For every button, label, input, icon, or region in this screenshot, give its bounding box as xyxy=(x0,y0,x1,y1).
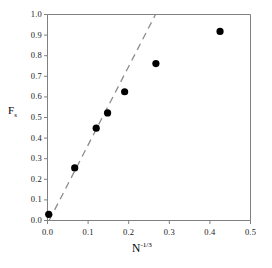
x-tick-label: 0.2 xyxy=(113,227,145,237)
scatter-chart-figure: 0.00.10.20.30.40.50.60.70.80.91.0 0.00.1… xyxy=(0,0,272,268)
x-tick-label: 0.3 xyxy=(153,227,185,237)
x-tick-label: 0.5 xyxy=(235,227,267,237)
y-axis-label-subscript: s xyxy=(14,111,17,118)
data-point xyxy=(216,28,223,35)
y-tick-label: 0.4 xyxy=(12,133,42,143)
x-tick-label: 0.0 xyxy=(32,227,64,237)
x-tick-label: 0.1 xyxy=(72,227,104,237)
y-tick-label: 0.1 xyxy=(12,194,42,204)
y-tick-label: 1.0 xyxy=(12,9,42,19)
x-axis-label-superscript: -1/3 xyxy=(140,241,151,249)
data-point xyxy=(104,109,111,116)
y-tick-label: 0.0 xyxy=(12,215,42,225)
y-axis-label: Fs xyxy=(8,104,17,116)
reference-line xyxy=(49,15,155,221)
data-point xyxy=(93,125,100,132)
data-point xyxy=(121,88,128,95)
y-tick-label: 0.2 xyxy=(12,174,42,184)
x-tick-label: 0.4 xyxy=(194,227,226,237)
y-tick-label: 0.3 xyxy=(12,153,42,163)
data-point xyxy=(45,211,52,218)
reference-dashed-line xyxy=(49,15,155,221)
data-point xyxy=(152,60,159,67)
data-point xyxy=(71,164,78,171)
y-tick-label: 0.6 xyxy=(12,91,42,101)
axis-ticks xyxy=(44,15,251,225)
x-axis-label: N-1/3 xyxy=(0,242,272,254)
y-tick-label: 0.7 xyxy=(12,71,42,81)
y-tick-label: 0.9 xyxy=(12,30,42,40)
y-tick-label: 0.8 xyxy=(12,50,42,60)
axes-group xyxy=(48,15,251,221)
